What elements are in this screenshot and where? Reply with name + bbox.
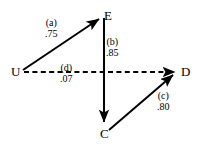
- edge-label-d: (d) .07: [60, 62, 73, 84]
- edge-label-c-name: (c): [157, 90, 170, 101]
- diagram-canvas: [0, 0, 197, 146]
- node-label-e: E: [104, 9, 112, 22]
- edge-label-c: (c) .80: [157, 90, 170, 112]
- edge-label-d-name: (d): [60, 62, 73, 73]
- node-label-c: C: [100, 127, 109, 140]
- edge-label-b-value: .85: [106, 47, 119, 58]
- edge-label-c-value: .80: [157, 101, 170, 112]
- node-label-u: U: [11, 65, 20, 78]
- edge-label-d-value: .07: [60, 73, 73, 84]
- node-label-d: D: [181, 65, 190, 78]
- edge-label-a-value: .75: [45, 28, 58, 39]
- edge-label-b-name: (b): [106, 36, 119, 47]
- edge-label-b: (b) .85: [106, 36, 119, 58]
- edge-label-a-name: (a): [45, 17, 58, 28]
- path-diagram: E U D C (a) .75 (b) .85 (c) .80 (d) .07: [0, 0, 197, 146]
- edge-label-a: (a) .75: [45, 17, 58, 39]
